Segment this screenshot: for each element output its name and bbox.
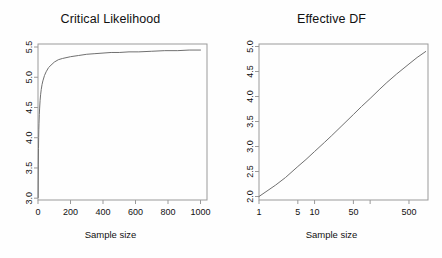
svg-text:800: 800 <box>160 207 175 217</box>
x-axis-label-left: Sample size <box>0 229 221 240</box>
svg-text:50: 50 <box>348 207 358 217</box>
svg-text:5: 5 <box>295 207 300 217</box>
svg-text:2.0: 2.0 <box>245 190 255 203</box>
axes-right: 1510505002.02.53.03.54.04.55.0 <box>245 40 428 217</box>
svg-text:3.0: 3.0 <box>24 192 34 205</box>
plot-area-right: 1510505002.02.53.03.54.04.55.0 <box>221 0 442 258</box>
panel-critical-likelihood: Critical Likelihood 020040060080010003.0… <box>0 0 221 258</box>
svg-text:5.0: 5.0 <box>24 71 34 84</box>
plot-area-left: 020040060080010003.03.54.04.55.05.5 <box>0 0 221 258</box>
axes-left: 020040060080010003.03.54.04.55.05.5 <box>24 41 211 217</box>
svg-text:1: 1 <box>256 207 261 217</box>
svg-text:500: 500 <box>401 207 416 217</box>
svg-text:5.0: 5.0 <box>245 40 255 53</box>
svg-text:400: 400 <box>95 207 110 217</box>
svg-text:1000: 1000 <box>190 207 210 217</box>
series-effective-df <box>259 52 426 197</box>
svg-text:3.0: 3.0 <box>245 140 255 153</box>
svg-text:600: 600 <box>128 207 143 217</box>
svg-text:3.5: 3.5 <box>245 115 255 128</box>
svg-text:4.5: 4.5 <box>245 65 255 78</box>
svg-text:0: 0 <box>35 207 40 217</box>
panel-effective-df: Effective DF 1510505002.02.53.03.54.04.5… <box>221 0 442 258</box>
svg-text:10: 10 <box>310 207 320 217</box>
svg-text:4.0: 4.0 <box>245 90 255 103</box>
svg-text:200: 200 <box>63 207 78 217</box>
svg-text:4.0: 4.0 <box>24 131 34 144</box>
svg-text:2.5: 2.5 <box>245 165 255 178</box>
svg-text:4.5: 4.5 <box>24 101 34 114</box>
svg-text:5.5: 5.5 <box>24 41 34 54</box>
figure-canvas: Critical Likelihood 020040060080010003.0… <box>0 0 442 258</box>
svg-text:3.5: 3.5 <box>24 162 34 175</box>
series-critical-likelihood <box>38 50 200 198</box>
x-axis-label-right: Sample size <box>221 229 442 240</box>
